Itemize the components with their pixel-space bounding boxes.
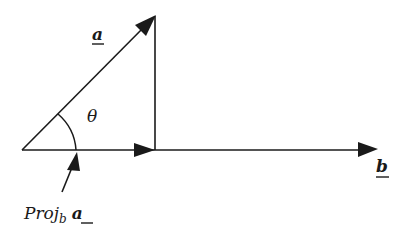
vector-a-label: a [92,24,103,44]
vector-b-label: b [376,156,388,176]
projection-label: Projba [23,203,83,226]
projection-subscript: b [59,212,67,226]
pointer-arrowhead-icon [67,152,80,171]
angle-arc [58,114,76,150]
projection-arrowhead-icon [134,143,155,157]
projection-prefix: Proj [23,203,60,223]
vector-a-line [22,21,150,150]
projection-vector: a [72,203,83,223]
vector-b-arrowhead-icon [358,142,378,157]
angle-theta-label: θ [87,106,97,126]
vector-projection-diagram: a θ b Projba [0,0,407,234]
